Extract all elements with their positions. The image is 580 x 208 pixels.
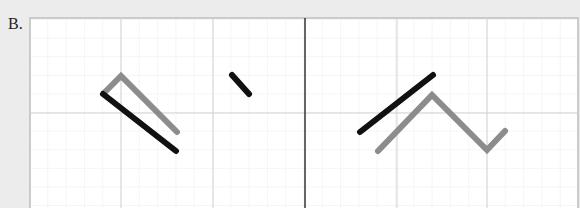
grid-figure: [0, 0, 580, 208]
